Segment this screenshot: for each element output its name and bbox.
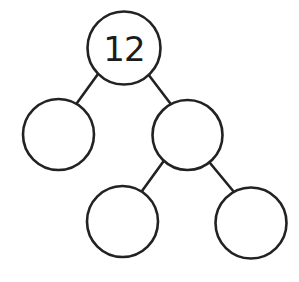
edge-right-rightright: [210, 163, 234, 192]
number-bond-diagram: 12: [0, 0, 299, 282]
node-right-right: [216, 188, 287, 259]
edge-root-left: [77, 74, 98, 103]
nodes: [23, 12, 287, 259]
node-right-left: [87, 186, 158, 257]
edge-root-right: [148, 74, 170, 103]
edge-right-rightleft: [142, 162, 163, 191]
node-root-label: 12: [103, 29, 144, 69]
node-left: [23, 99, 94, 170]
node-right: [153, 100, 223, 170]
